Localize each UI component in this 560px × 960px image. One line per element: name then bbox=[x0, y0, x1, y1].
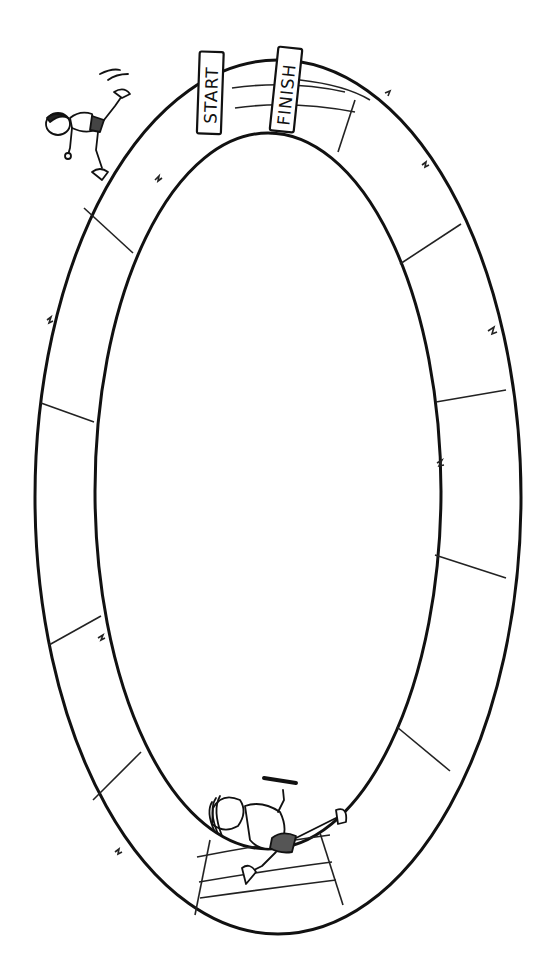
race-track-board: START FINISH bbox=[0, 0, 560, 960]
divider bbox=[93, 752, 141, 800]
track-inner-edge bbox=[95, 133, 441, 849]
grass-tufts bbox=[47, 91, 497, 854]
start-label: START bbox=[200, 66, 222, 124]
space-dividers bbox=[41, 208, 506, 800]
runner-bottom-figure bbox=[209, 778, 346, 884]
runner-top-left-figure bbox=[46, 70, 130, 181]
divider bbox=[397, 727, 450, 771]
divider bbox=[435, 555, 506, 578]
start-sign: START bbox=[197, 51, 224, 134]
divider bbox=[436, 390, 506, 402]
divider bbox=[400, 224, 461, 264]
track-outer-edge bbox=[35, 60, 521, 934]
divider bbox=[84, 208, 133, 253]
divider bbox=[49, 616, 101, 645]
start-finish-stripes bbox=[232, 80, 370, 152]
divider bbox=[41, 403, 94, 422]
